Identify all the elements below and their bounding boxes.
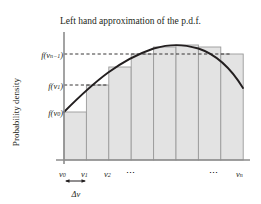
x-tick-label-v0: v0 (59, 163, 66, 181)
bar-2 (109, 67, 131, 160)
x-tick-ellipsis-left: ⋯ (126, 162, 136, 180)
v1-subscript: 1 (85, 172, 88, 178)
bar-4 (154, 47, 176, 160)
bar-6 (198, 47, 220, 160)
x-tick-label-v2: v2 (104, 163, 111, 181)
figure-container: Left hand approximation of the p.d.f. Pr… (0, 0, 261, 204)
y-tick-label-fv0: f(v0) (48, 102, 63, 120)
v0-subscript: 0 (63, 172, 66, 178)
bar-3 (131, 54, 153, 160)
fvn1-text: f(v (41, 50, 50, 60)
x-tick-ellipsis-right: ⋯ (209, 162, 219, 180)
y-tick-label-fv1: f(v1) (48, 75, 63, 93)
fvn1-subscript: n−1 (50, 53, 60, 59)
vn-subscript: n (240, 172, 243, 178)
fv1-text: f(v (48, 81, 57, 91)
y-tick-label-fvn1: f(vn−1) (41, 44, 63, 62)
x-tick-label-vn: vn (236, 163, 243, 181)
bar-0 (64, 112, 86, 160)
fvn1-close: ) (60, 50, 63, 60)
ellipsis-right-text: ⋯ (209, 168, 219, 178)
bar-group (64, 45, 243, 160)
fv1-close: ) (60, 81, 63, 91)
ellipsis-left-text: ⋯ (126, 168, 136, 178)
v2-subscript: 2 (108, 172, 111, 178)
bar-5 (176, 45, 198, 160)
fv0-close: ) (60, 108, 63, 118)
x-tick-label-v1: v1 (81, 163, 88, 181)
delta-v-label: Δv (62, 183, 90, 201)
bar-1 (86, 85, 108, 160)
bar-7 (221, 54, 243, 160)
fv0-text: f(v (48, 108, 57, 118)
delta-v-text: Δv (72, 189, 81, 199)
